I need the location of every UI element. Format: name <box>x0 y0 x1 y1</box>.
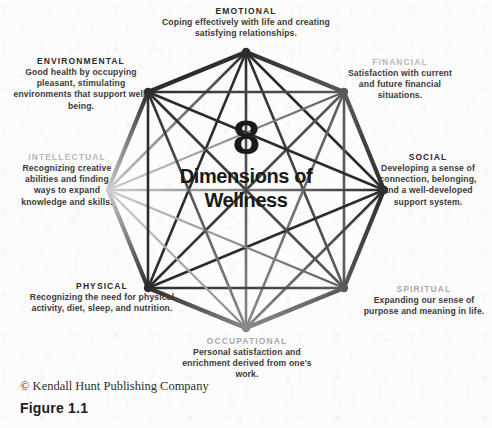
center-number: 8 <box>171 112 321 162</box>
dimension-body-social: Developing a sense of connection, belong… <box>376 163 480 208</box>
dimension-body-occupational: Personal satisfaction and enrichment der… <box>172 347 322 381</box>
figure-caption: Figure 1.1 <box>20 400 88 416</box>
dimension-label-physical: PHYSICAL Recognizing the need for physic… <box>22 281 182 314</box>
dimension-label-intellectual: INTELLECTUAL Recognizing creative abilit… <box>14 152 120 208</box>
figure-canvas: 8 Dimensions of Wellness EMOTIONAL Copin… <box>0 0 492 428</box>
dimension-body-environmental: Good health by occupying pleasant, stimu… <box>8 67 154 112</box>
dimension-label-financial: FINANCIAL Satisfaction with current and … <box>344 57 456 102</box>
dimension-title-spiritual: SPIRITUAL <box>360 284 488 295</box>
web-node-spiritual <box>340 284 348 292</box>
dimension-label-environmental: ENVIRONMENTAL Good health by occupying p… <box>8 56 154 112</box>
dimension-body-physical: Recognizing the need for physical activi… <box>22 292 182 314</box>
dimension-title-social: SOCIAL <box>376 152 480 163</box>
dimension-label-spiritual: SPIRITUAL Expanding our sense of purpose… <box>360 284 488 317</box>
dimension-label-occupational: OCCUPATIONAL Personal satisfaction and e… <box>172 336 322 381</box>
dimension-body-intellectual: Recognizing creative abilities and findi… <box>14 163 120 208</box>
web-node-emotional <box>242 48 250 56</box>
dimension-title-financial: FINANCIAL <box>344 57 456 68</box>
web-node-occupational <box>242 324 250 332</box>
dimension-body-emotional: Coping effectively with life and creatin… <box>146 17 346 39</box>
copyright-notice: © Kendall Hunt Publishing Company <box>20 379 209 394</box>
dimension-label-emotional: EMOTIONAL Coping effectively with life a… <box>146 6 346 39</box>
center-line-dimensions-of: Dimensions of <box>171 164 321 188</box>
dimension-body-financial: Satisfaction with current and future fin… <box>344 68 456 102</box>
dimension-body-spiritual: Expanding our sense of purpose and meani… <box>360 295 488 317</box>
center-line-wellness: Wellness <box>171 188 321 212</box>
dimension-label-social: SOCIAL Developing a sense of connection,… <box>376 152 480 208</box>
dimension-title-occupational: OCCUPATIONAL <box>172 336 322 347</box>
dimension-title-emotional: EMOTIONAL <box>146 6 346 17</box>
dimension-title-physical: PHYSICAL <box>22 281 182 292</box>
center-title-block: 8 Dimensions of Wellness <box>171 112 321 212</box>
dimension-title-intellectual: INTELLECTUAL <box>14 152 120 163</box>
dimension-title-environmental: ENVIRONMENTAL <box>8 56 154 67</box>
